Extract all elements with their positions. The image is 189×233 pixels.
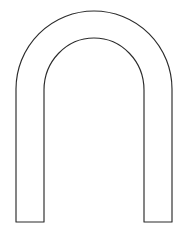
figure-canvas bbox=[0, 0, 189, 233]
arch-drawing bbox=[0, 0, 189, 233]
